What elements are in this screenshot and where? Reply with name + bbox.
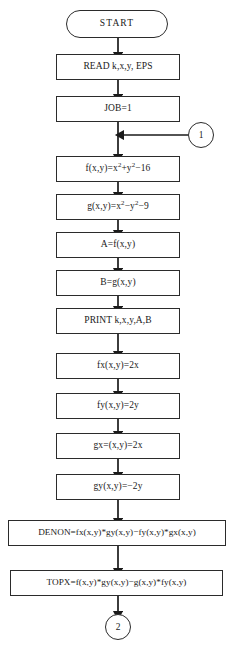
- node-g-definition-label: g(x,y)=x2−y2−9: [87, 202, 149, 212]
- node-print[interactable]: PRINT k,x,y,A,B: [56, 308, 180, 334]
- node-b-assign[interactable]: B=g(x,y): [56, 270, 180, 296]
- node-job-label: JOB=1: [104, 104, 132, 114]
- node-f-definition-label: f(x,y)=x2+y2−16: [86, 164, 151, 174]
- node-fy-label: fy(x,y)=2y: [97, 401, 139, 411]
- node-g-definition[interactable]: g(x,y)=x2−y2−9: [56, 194, 180, 220]
- node-f-definition[interactable]: f(x,y)=x2+y2−16: [56, 156, 180, 182]
- node-fy[interactable]: fy(x,y)=2y: [56, 393, 180, 419]
- node-job[interactable]: JOB=1: [56, 96, 180, 122]
- node-print-label: PRINT k,x,y,A,B: [84, 316, 151, 326]
- node-denon-label: DENON=fx(x,y)*gy(x,y)−fy(x,y)*gx(x,y): [38, 528, 196, 537]
- connector-in-one[interactable]: 1: [188, 122, 214, 148]
- node-denon[interactable]: DENON=fx(x,y)*gy(x,y)−fy(x,y)*gx(x,y): [8, 520, 226, 546]
- node-a-assign-label: A=f(x,y): [101, 240, 135, 250]
- node-b-assign-label: B=g(x,y): [100, 278, 135, 288]
- flowchart-canvas: START READ k,x,y, EPS JOB=1 1 f(x,y)=x2+…: [0, 0, 235, 652]
- node-start[interactable]: START: [66, 10, 168, 38]
- node-fx-label: fx(x,y)=2x: [97, 361, 139, 371]
- node-read[interactable]: READ k,x,y, EPS: [56, 54, 180, 80]
- node-gx-label: gx=(x,y)=2x: [93, 441, 142, 451]
- node-gy-label: gy(x,y)=−2y: [93, 482, 142, 492]
- node-start-label: START: [100, 19, 134, 29]
- connector-out-two[interactable]: 2: [105, 614, 131, 640]
- node-gx[interactable]: gx=(x,y)=2x: [56, 433, 180, 459]
- connector-out-two-label: 2: [116, 622, 121, 632]
- node-a-assign[interactable]: A=f(x,y): [56, 232, 180, 258]
- node-read-label: READ k,x,y, EPS: [83, 62, 152, 72]
- node-topx[interactable]: TOPX=f(x,y)*gy(x,y)−g(x,y)*fy(x,y): [10, 570, 223, 596]
- node-fx[interactable]: fx(x,y)=2x: [56, 353, 180, 379]
- node-topx-label: TOPX=f(x,y)*gy(x,y)−g(x,y)*fy(x,y): [47, 578, 187, 587]
- connector-in-one-label: 1: [199, 130, 204, 140]
- node-gy[interactable]: gy(x,y)=−2y: [56, 474, 180, 500]
